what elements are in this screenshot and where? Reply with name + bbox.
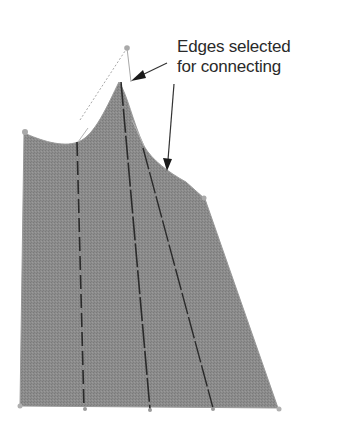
- vertex-top-left[interactable]: [22, 129, 28, 135]
- annotation-label-line2: for connecting: [177, 57, 281, 77]
- vertex-peak[interactable]: [124, 45, 130, 51]
- annotation-arrow-1-head: [131, 70, 146, 81]
- vertex-bottom-1[interactable]: [83, 407, 87, 411]
- vertex-bottom-3[interactable]: [211, 407, 215, 411]
- vertex-bottom-left[interactable]: [18, 404, 23, 409]
- vertex-right-shoulder[interactable]: [202, 196, 207, 201]
- annotation-label-line1: Edges selected: [177, 37, 290, 57]
- vertex-bottom-2[interactable]: [148, 408, 152, 412]
- diagram-canvas: [0, 0, 347, 427]
- control-handle-right: [127, 48, 131, 82]
- filled-panel: [20, 82, 278, 408]
- vertex-bottom-right[interactable]: [277, 407, 282, 412]
- annotation-arrow-2-shaft: [168, 84, 174, 160]
